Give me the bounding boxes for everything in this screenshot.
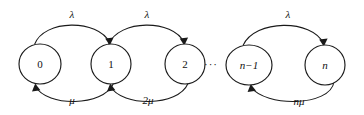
rate-label-nmu-n-to-nminus1: nμ: [293, 95, 305, 107]
transition-edge-1-to-2: [109, 25, 189, 45]
arrow-head-into-0: [32, 84, 40, 92]
rate-label-2mu-2-to-1: 2μ: [142, 94, 154, 106]
state-node-n[interactable]: n: [305, 45, 345, 85]
state-node-1-label: 1: [108, 58, 114, 70]
rate-label-mu-1-to-0: μ: [68, 94, 75, 106]
state-node-n-label: n: [322, 59, 328, 71]
state-node-1[interactable]: 1: [91, 44, 131, 84]
state-node-2-label: 2: [182, 58, 188, 70]
state-node-2[interactable]: 2: [165, 44, 205, 84]
state-transition-diagram: 0 1 2 n−1 n ··· λ λ λ μ 2μ nμ: [0, 0, 364, 115]
state-node-0[interactable]: 0: [19, 44, 61, 84]
rate-label-lambda-nminus1-to-n: λ: [285, 8, 291, 20]
state-node-n-minus-1-label: n−1: [240, 59, 258, 71]
diagram-canvas: 0 1 2 n−1 n ··· λ λ λ μ 2μ nμ: [0, 0, 364, 115]
edge-arc-0-to-1: [35, 25, 110, 44]
edge-arc-nminus1-to-n: [243, 25, 324, 45]
edge-arc-1-to-2: [109, 25, 185, 44]
arrow-head-into-1-lower: [107, 84, 115, 92]
transition-edge-0-to-1: [35, 25, 114, 45]
ellipsis-separator: ···: [204, 58, 218, 70]
state-node-n-minus-1[interactable]: n−1: [226, 45, 272, 85]
state-node-0-label: 0: [37, 58, 43, 70]
rate-label-lambda-1-to-2: λ: [144, 8, 150, 20]
transition-edge-nminus1-to-n: [243, 25, 328, 46]
rate-label-lambda-0-to-1: λ: [69, 8, 75, 20]
